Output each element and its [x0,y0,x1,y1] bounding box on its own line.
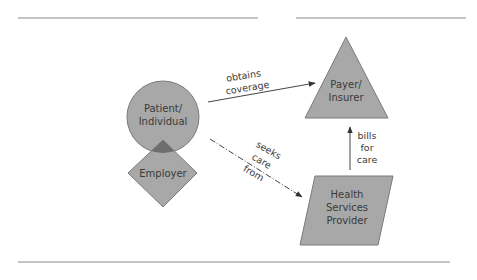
edge-bills-for-care: bills for care [350,127,377,170]
provider-label-line2: Services [326,202,368,213]
payer-node: Payer/ Insurer [305,37,388,118]
patient-label-line1: Patient/ [144,103,183,114]
patient-label-line2: Individual [139,116,188,127]
edge-obtains-coverage: obtains coverage [208,67,315,102]
bills-label-line1: bills [358,130,377,141]
bills-label-line2: for [360,142,373,153]
provider-label-line1: Health [331,189,364,200]
payer-triangle [305,37,388,118]
payer-label-line1: Payer/ [330,79,362,90]
edge-seeks-care-from: seeks care from [210,138,302,197]
diagram-canvas: Patient/ Individual Employer Payer/ Insu… [0,0,477,280]
employer-label: Employer [139,168,187,179]
provider-node: Health Services Provider [300,176,393,245]
payer-label-line2: Insurer [329,92,365,103]
provider-label-line3: Provider [326,215,368,226]
bills-label-line3: care [357,154,378,165]
